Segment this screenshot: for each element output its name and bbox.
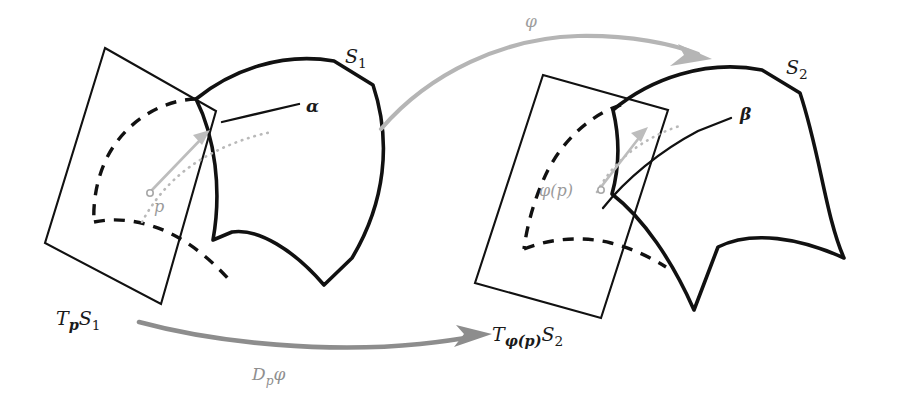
- tangent-plane-TpS1-group: [45, 48, 216, 304]
- label-surface-S1: S1: [345, 45, 367, 71]
- label-tangent-plane-TphipS2: Tφ(p)S2: [492, 323, 563, 349]
- point-p-marker: [147, 190, 153, 196]
- label-differential-Dpphi: Dpφ: [251, 364, 285, 388]
- label-curve-alpha: α: [306, 96, 319, 116]
- label-point-p: p: [154, 197, 164, 216]
- label-point-phi-p: φ(p): [539, 181, 573, 200]
- map-arrow-phi-group: [381, 36, 712, 129]
- label-surface-S2: S2: [786, 56, 808, 82]
- differential-arrow-head: [454, 325, 492, 347]
- tangent-plane-TpS1-outline: [45, 48, 216, 304]
- tangent-vector-head-2: [631, 127, 648, 142]
- differential-arrow-group: [139, 322, 492, 347]
- dashed-curve-right-vertical: [524, 105, 621, 249]
- label-map-phi: φ: [525, 11, 537, 31]
- dashed-curve-left-horizontal: [94, 220, 232, 283]
- label-tangent-plane-TpS1: TpS1: [56, 307, 101, 333]
- label-curve-beta: β: [739, 104, 751, 124]
- differential-arrow-shaft: [139, 322, 477, 347]
- point-phi-p-marker: [598, 187, 604, 193]
- beta-curve-line: [603, 118, 731, 208]
- diagram-canvas: α p S1 TpS1 β φ(p) S2 Tφ(p)S2: [0, 0, 906, 402]
- right-dotted-curve-group: [597, 125, 683, 193]
- figure-root: α p S1 TpS1 β φ(p) S2 Tφ(p)S2: [0, 0, 906, 402]
- surface-S1-group: [196, 59, 383, 285]
- tangent-vector-shaft-2: [601, 134, 642, 187]
- surface-S1-outline: [196, 59, 383, 285]
- dashed-curve-right-horizontal: [524, 239, 666, 267]
- alpha-leader-line: [222, 104, 299, 122]
